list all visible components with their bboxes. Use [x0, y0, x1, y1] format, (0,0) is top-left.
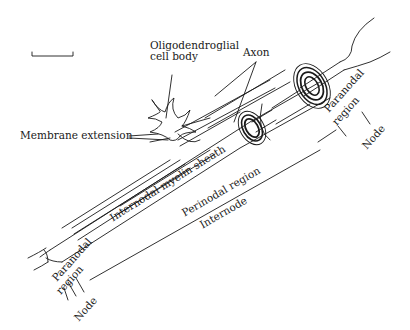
- axon-branch-right: [340, 18, 390, 70]
- scale-bar: [32, 52, 73, 56]
- axon-leaders: [129, 62, 256, 140]
- label-axon: Axon: [243, 47, 270, 58]
- label-membrane-extension: Membrane extension: [20, 130, 132, 141]
- label-oligodendroglial: Oligodendroglial cell body: [150, 40, 239, 62]
- internodal-lamellae: [62, 70, 290, 240]
- oligodendroglial-cell: [148, 98, 210, 142]
